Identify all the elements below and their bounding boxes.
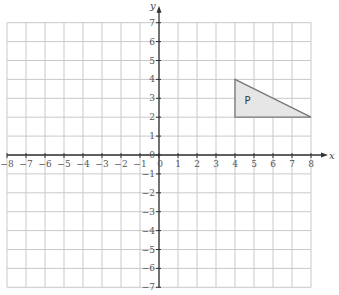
y-tick-label: 7 xyxy=(149,18,155,28)
y-tick-label: −6 xyxy=(142,263,156,273)
y-tick-label: 1 xyxy=(149,131,155,141)
triangle-p-label: P xyxy=(245,95,251,106)
x-tick-label: 2 xyxy=(194,159,200,169)
x-tick-label: −2 xyxy=(114,159,127,169)
y-tick-label: −1 xyxy=(142,169,155,179)
x-tick-label: 1 xyxy=(175,159,181,169)
y-tick-label: 5 xyxy=(149,56,155,66)
x-tick-label: −7 xyxy=(19,159,33,169)
x-tick-label: −1 xyxy=(133,159,146,169)
y-tick-label: −4 xyxy=(142,226,156,236)
x-tick-label: −8 xyxy=(0,159,14,169)
x-tick-label: 3 xyxy=(213,159,219,169)
y-tick-label: −2 xyxy=(142,188,155,198)
x-tick-label: 5 xyxy=(251,159,257,169)
x-axis-label: x xyxy=(329,150,335,161)
x-tick-label: −3 xyxy=(95,159,109,169)
x-tick-label: 7 xyxy=(289,159,295,169)
y-tick-label: 0 xyxy=(149,150,155,160)
y-tick-label: 2 xyxy=(149,112,155,122)
x-tick-label: 4 xyxy=(232,159,238,169)
y-tick-label: −7 xyxy=(142,282,156,292)
y-tick-label: 6 xyxy=(149,37,155,47)
y-tick-label: −3 xyxy=(142,207,156,217)
x-tick-label: 6 xyxy=(270,159,276,169)
y-tick-label: 4 xyxy=(149,74,155,84)
x-tick-label: −4 xyxy=(76,159,90,169)
coordinate-grid: P −8−7−6−5−4−3−2−101234567876543210−1−2−… xyxy=(0,0,339,295)
y-tick-label: 3 xyxy=(149,93,155,103)
x-tick-label: −6 xyxy=(38,159,52,169)
x-tick-label: 0 xyxy=(157,159,163,169)
y-tick-label: −5 xyxy=(142,245,156,255)
x-tick-label: −5 xyxy=(57,159,71,169)
axes xyxy=(7,6,328,288)
x-tick-label: 8 xyxy=(308,159,314,169)
y-axis-label: y xyxy=(149,0,156,11)
